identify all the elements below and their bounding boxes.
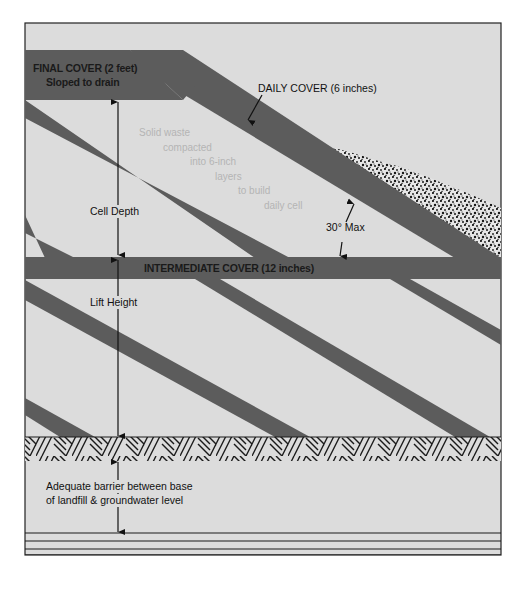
barrier-label-line-2: of landfill & groundwater level [46,494,183,507]
daily-cover-label: DAILY COVER (6 inches) [258,82,377,95]
solid-waste-line-3: into 6-inch [190,155,236,168]
solid-waste-line-1: Solid waste [139,126,190,139]
solid-waste-line-2: compacted [163,141,212,154]
cell-depth-label: Cell Depth [89,205,140,218]
final-cover-label: FINAL COVER (2 feet) [33,62,137,75]
solid-waste-line-4: layers [215,170,242,183]
sloped-to-drain-label: Sloped to drain [46,76,119,89]
lift-height-label: Lift Height [89,296,138,309]
solid-waste-line-6: daily cell [264,199,302,212]
solid-waste-line-5: to build [238,184,270,197]
landfill-base-hatch [25,437,501,461]
intermediate-cover-label: INTERMEDIATE COVER (12 inches) [144,262,314,275]
slope-angle-label: 30° Max [326,221,365,234]
barrier-label-line-1: Adequate barrier between base [46,480,193,493]
